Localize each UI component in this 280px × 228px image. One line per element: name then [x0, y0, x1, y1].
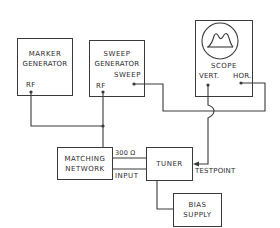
bias-wire — [157, 181, 173, 209]
vert-label: VERT. — [199, 72, 219, 80]
matching-network-label-2: NETWORK — [57, 165, 113, 173]
bias-supply-label-2: SUPPLY — [173, 211, 222, 219]
matching-network-block — [57, 147, 113, 180]
matching-network-label-1: MATCHING — [57, 155, 113, 163]
testpoint-label: TESTPOINT — [195, 167, 236, 175]
scope-label: SCOPE — [195, 62, 253, 70]
sweep-generator-label-2: GENERATOR — [89, 60, 145, 68]
marker-generator-label-2: GENERATOR — [17, 60, 73, 68]
bias-supply-block — [173, 193, 222, 227]
tuner-label: TUNER — [146, 160, 193, 168]
hor-label: HOR. — [233, 72, 251, 80]
sweep-rf-label: RF — [96, 82, 106, 90]
marker-generator-label-1: MARKER — [17, 50, 73, 58]
ohm-300-label: 300 Ω — [115, 149, 135, 157]
block-diagram: MARKER GENERATOR RF SWEEP GENERATOR SWEE… — [0, 0, 280, 228]
sweep-out-label: SWEEP — [114, 71, 141, 79]
input-label: INPUT — [115, 172, 138, 180]
scope-block — [195, 20, 253, 97]
testpoint-arrow-icon — [193, 162, 199, 167]
marker-rf-wire — [31, 92, 103, 126]
bias-supply-label-1: BIAS — [173, 201, 222, 209]
marker-rf-label: RF — [26, 81, 36, 89]
rf-junction-dot — [101, 124, 104, 127]
sweep-generator-label-1: SWEEP — [89, 50, 145, 58]
